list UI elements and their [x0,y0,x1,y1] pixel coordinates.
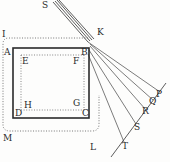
diagram-canvas: S K I A B E F H G D C M L P Q R S T [0,0,170,162]
label-D: D [15,108,22,118]
label-A: A [3,47,11,57]
label-E: E [22,56,29,66]
diverging-rays [88,42,160,142]
label-M: M [3,133,12,143]
label-Q: Q [149,96,156,106]
label-R: R [142,106,149,116]
label-L: L [90,142,96,152]
label-G: G [73,98,80,108]
label-F: F [73,56,79,66]
optics-diagram: S K I A B E F H G D C M L P Q R S T [0,0,170,162]
incident-rays [53,0,94,42]
label-T: T [122,141,128,151]
label-S-bottom: S [134,122,140,132]
label-P: P [156,89,162,99]
label-I: I [2,29,6,39]
label-B: B [81,47,88,57]
label-H: H [24,100,32,110]
label-K: K [97,27,104,37]
label-S-top: S [42,0,48,10]
label-C: C [82,108,89,118]
